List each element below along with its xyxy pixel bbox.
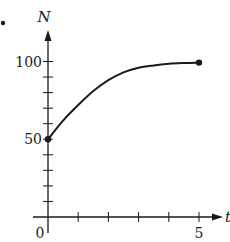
y-tick-label: 50 [24, 131, 42, 147]
chart: Nt5010050 [0, 0, 230, 242]
chart-canvas: Nt5010050 [0, 0, 230, 242]
ticks [43, 62, 199, 223]
y-axis-label: N [36, 8, 51, 26]
x-axis-arrow-icon [212, 214, 223, 221]
y-tick-label: 100 [15, 54, 42, 70]
end-point-dot [196, 59, 202, 65]
start-point-dot [45, 136, 51, 142]
origin-label: 0 [36, 225, 45, 241]
y-axis-arrow-icon [45, 30, 52, 41]
x-axis-label: t [225, 208, 230, 226]
bullet-dot [1, 21, 5, 25]
axes [33, 30, 223, 233]
series-line [48, 63, 199, 140]
bullet-marker [1, 21, 5, 25]
data-curve [48, 63, 199, 140]
x-tick-label: 5 [195, 225, 204, 241]
